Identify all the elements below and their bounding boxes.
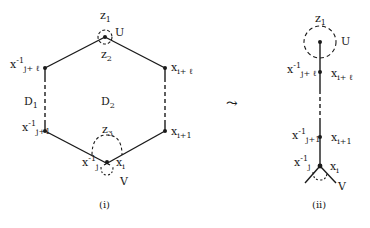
edge-top-right	[105, 37, 165, 68]
label-x-i-plus-l-ii: xi+ ℓ	[331, 68, 353, 79]
node-top	[103, 35, 107, 39]
label-x-j-plus-1-inv: x-1j+1	[22, 122, 50, 133]
node-upper-ii	[318, 70, 322, 74]
label-v: V	[120, 176, 128, 187]
label-u-ii: U	[341, 36, 350, 47]
label-x-i: xi	[116, 157, 125, 168]
label-x-j-inv-ii: x-1j	[294, 157, 311, 168]
caption-ii: (ii)	[312, 200, 326, 210]
edge-top-left	[45, 37, 105, 68]
edge-bottom-left	[45, 131, 110, 165]
label-x-i-plus-1-ii: xi+1	[331, 132, 352, 143]
node-upper-left	[43, 66, 47, 70]
arc-v-ii	[313, 172, 327, 180]
squiggle-arrow-icon: ⤳	[226, 96, 238, 110]
label-z1: z1	[100, 10, 111, 21]
label-x-j-plus-1-inv-ii: x-1j+1	[292, 130, 320, 141]
label-x-j-plus-l-inv: x-1j+ ℓ	[10, 59, 40, 70]
arc-v	[101, 167, 113, 175]
diagram-canvas	[0, 0, 370, 228]
node-lower-right	[163, 129, 167, 133]
label-d2: D2	[101, 96, 115, 107]
label-u: U	[115, 27, 124, 38]
label-v-ii: V	[338, 181, 346, 192]
label-x-i-ii: xi	[330, 161, 339, 172]
label-x-i-plus-1: xi+1	[171, 126, 192, 137]
label-d1: D1	[24, 96, 38, 107]
caption-i: (i)	[99, 200, 110, 210]
label-z1-ii: z1	[315, 13, 326, 24]
node-center-ii	[318, 40, 322, 44]
node-upper-right	[163, 66, 167, 70]
label-x-i-plus-l: xi+ ℓ	[171, 62, 193, 73]
label-z3: z3	[102, 124, 113, 135]
label-x-j-plus-l-inv-ii: x-1j+ ℓ	[287, 64, 317, 75]
label-x-j-inv: x-1j	[82, 157, 99, 168]
node-bottom	[105, 160, 109, 164]
label-z2: z2	[101, 49, 112, 60]
node-bottom-ii	[318, 164, 323, 169]
